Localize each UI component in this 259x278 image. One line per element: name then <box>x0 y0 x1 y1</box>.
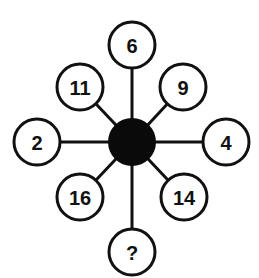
center-hub <box>108 118 156 166</box>
node-top: 6 <box>109 22 155 68</box>
node-label: 9 <box>177 77 188 99</box>
node-label: 2 <box>31 132 42 154</box>
node-left: 2 <box>14 119 60 165</box>
node-top-left: 11 <box>57 64 103 110</box>
node-label: ? <box>126 242 138 264</box>
node-bottom: ? <box>109 229 155 275</box>
node-label: 11 <box>69 77 90 99</box>
node-bottom-left: 16 <box>57 174 103 220</box>
node-label: 4 <box>220 132 232 154</box>
node-top-right: 9 <box>160 64 206 110</box>
node-right: 4 <box>203 119 249 165</box>
node-bottom-right: 14 <box>161 174 207 220</box>
node-label: 14 <box>173 187 196 209</box>
number-wheel-diagram: 69414?16211 <box>0 0 259 278</box>
node-label: 6 <box>126 35 137 57</box>
diagram-canvas: 69414?16211 <box>0 0 259 278</box>
node-label: 16 <box>69 187 91 209</box>
